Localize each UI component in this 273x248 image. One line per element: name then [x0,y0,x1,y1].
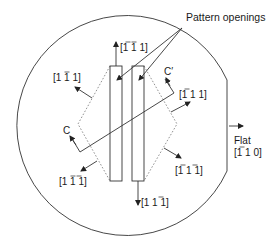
label-upper-left-direction: [1 1 1] [53,72,81,83]
svg-text:[1 1 1]: [1 1 1] [175,165,203,176]
label-upper-right-direction: [1 1 1] [179,89,207,100]
svg-text:[1 1 1]: [1 1 1] [59,176,87,187]
pattern-opening-left [110,66,122,181]
label-lower-left-direction: [1 1 1] [59,176,87,187]
leader-line-right [139,28,182,80]
pattern-openings-label: Pattern openings [186,11,265,23]
arrow-upper-right [171,102,190,112]
pattern-opening-right [132,66,144,181]
svg-text:[1 1 1]: [1 1 1] [179,89,207,100]
wafer-orientation-diagram: Pattern openings [1 1 1] [1 1 1] [1 1 1]… [0,0,273,248]
label-up-direction: [1 1 1] [120,42,148,53]
section-label-c-prime: C′ [164,66,173,77]
section-arrow-c [70,136,76,145]
svg-text:[1 1 1]: [1 1 1] [120,42,148,53]
section-label-c: C [63,125,70,136]
svg-text:[1 1 1]: [1 1 1] [141,197,169,208]
label-down-direction: [1 1 1] [141,197,169,208]
arrow-upper-left [75,87,92,98]
flat-label: Flat [234,135,251,146]
label-lower-right-direction: [1 1 1] [175,165,203,176]
arrow-lower-right [164,148,181,158]
dashed-plane-right [144,66,177,181]
arrow-lower-left [81,161,97,171]
svg-text:[1 1 0]: [1 1 0] [234,147,262,158]
dashed-plane-left [78,66,110,181]
label-flat-direction: [1 1 0] [234,147,262,158]
svg-text:[1 1 1]: [1 1 1] [53,72,81,83]
section-line-c-cprime [71,79,174,152]
